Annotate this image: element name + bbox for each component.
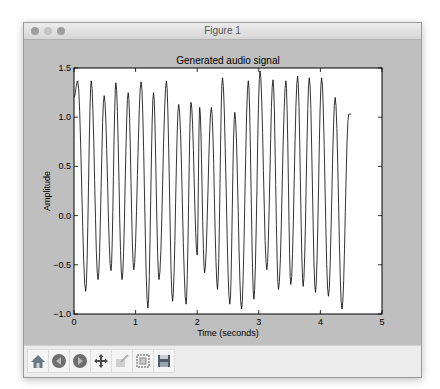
- window-title: Figure 1: [24, 25, 421, 36]
- home-icon: [30, 353, 46, 369]
- x-tick-label: 0: [71, 317, 76, 327]
- back-button[interactable]: [48, 349, 70, 373]
- y-axis-label: Amplitude: [42, 171, 52, 211]
- x-tick-label: 5: [379, 317, 384, 327]
- y-tick-label: −0.5: [53, 260, 71, 270]
- zoom-rect-button[interactable]: [111, 349, 133, 373]
- subplots-icon: [135, 353, 151, 369]
- configure-subplots-button[interactable]: [132, 349, 154, 373]
- move-cross-icon: [93, 353, 109, 369]
- x-tick-label: 4: [318, 317, 323, 327]
- forward-button[interactable]: [69, 349, 91, 373]
- y-tick-label: 1.0: [58, 112, 71, 122]
- home-button[interactable]: [27, 349, 49, 373]
- zoom-rect-icon: [114, 353, 130, 369]
- y-tick-label: 0.5: [58, 161, 71, 171]
- title-bar[interactable]: Figure 1: [24, 23, 421, 40]
- x-tick-label: 1: [133, 317, 138, 327]
- figure-canvas[interactable]: Generated audio signal −1.0−0.50.00.51.0…: [24, 40, 421, 345]
- x-axis-label: Time (seconds): [197, 328, 259, 338]
- pan-button[interactable]: [90, 349, 112, 373]
- x-tick-label: 2: [195, 317, 200, 327]
- x-tick-label: 3: [256, 317, 261, 327]
- y-tick-label: 0.0: [58, 211, 71, 221]
- chart: Generated audio signal −1.0−0.50.00.51.0…: [24, 40, 421, 345]
- y-tick-label: −1.0: [53, 309, 71, 319]
- floppy-disk-icon: [156, 353, 172, 369]
- forward-arrow-icon: [72, 353, 88, 369]
- navigation-toolbar: [24, 345, 421, 377]
- chart-title: Generated audio signal: [176, 55, 279, 66]
- save-button[interactable]: [153, 349, 175, 373]
- back-arrow-icon: [51, 353, 67, 369]
- figure-window: Figure 1 Generated audio signal −1.0−0.5…: [23, 22, 422, 378]
- y-tick-label: 1.5: [58, 63, 71, 73]
